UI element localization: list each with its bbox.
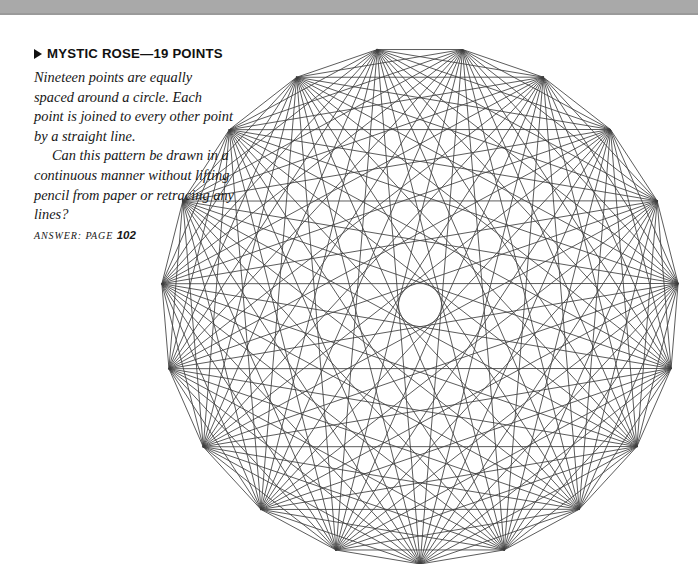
answer-page-word: page xyxy=(85,230,113,241)
puzzle-text-block: MYSTIC ROSE—19 POINTS Nineteen points ar… xyxy=(34,46,234,241)
puzzle-paragraph-2: Can this pattern be drawn in a continuou… xyxy=(34,146,234,224)
answer-reference: Answer: page 102 xyxy=(34,229,234,241)
puzzle-paragraph-1: Nineteen points are equally spaced aroun… xyxy=(34,68,234,146)
answer-label: Answer: xyxy=(34,230,82,241)
chord-set xyxy=(162,50,678,564)
answer-page-number: 102 xyxy=(117,229,136,241)
triangle-bullet-icon xyxy=(34,49,42,59)
mystic-rose-chords xyxy=(162,50,678,564)
page-title-text: MYSTIC ROSE—19 POINTS xyxy=(47,46,223,61)
puzzle-page: MYSTIC ROSE—19 POINTS Nineteen points ar… xyxy=(0,0,698,564)
page-title: MYSTIC ROSE—19 POINTS xyxy=(34,46,234,61)
